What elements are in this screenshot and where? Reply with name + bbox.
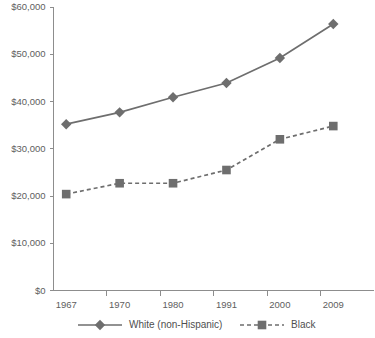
legend-item-white[interactable]: White (non-Hispanic)	[78, 319, 222, 330]
y-tick-label: $0	[35, 285, 46, 296]
x-tick-label: 1980	[162, 299, 183, 310]
y-tick-marks	[50, 7, 54, 291]
data-point-marker	[168, 92, 178, 102]
series-layer	[61, 19, 338, 199]
legend-label: Black	[291, 319, 316, 330]
data-point-marker	[222, 166, 231, 175]
data-point-marker	[169, 179, 178, 188]
data-point-marker	[329, 122, 338, 131]
legend-square-icon	[258, 321, 267, 330]
x-tick-marks	[107, 291, 321, 296]
data-point-marker	[275, 53, 285, 63]
x-axis	[54, 291, 375, 296]
legend-label: White (non-Hispanic)	[129, 319, 222, 330]
series-black	[62, 122, 338, 199]
data-point-marker	[62, 190, 71, 199]
y-tick-label: $60,000	[11, 1, 45, 12]
y-tick-label: $50,000	[11, 48, 45, 59]
y-tick-label: $30,000	[11, 143, 45, 154]
series-white	[61, 19, 338, 130]
legend-diamond-icon	[95, 320, 105, 330]
y-tick-label: $40,000	[11, 96, 45, 107]
chart-canvas: $0$10,000$20,000$30,000$40,000$50,000$60…	[0, 0, 375, 338]
x-tick-label: 1991	[216, 299, 237, 310]
series-line	[66, 126, 333, 194]
x-tick-label: 1970	[109, 299, 130, 310]
data-point-marker	[61, 119, 71, 129]
data-point-marker	[221, 78, 231, 88]
x-tick-label: 2009	[323, 299, 344, 310]
x-tick-label: 2000	[269, 299, 290, 310]
data-point-marker	[328, 19, 338, 29]
data-point-marker	[114, 107, 124, 117]
y-axis	[50, 7, 54, 291]
series-line	[66, 24, 333, 124]
legend-item-black[interactable]: Black	[240, 319, 316, 330]
data-point-marker	[115, 179, 124, 188]
x-tick-labels: 196719701980199120002009	[56, 299, 344, 310]
data-point-marker	[276, 135, 285, 144]
y-tick-labels: $0$10,000$20,000$30,000$40,000$50,000$60…	[11, 1, 45, 296]
y-tick-label: $10,000	[11, 237, 45, 248]
chart-legend: White (non-Hispanic)Black	[78, 319, 316, 330]
income-by-race-line-chart: $0$10,000$20,000$30,000$40,000$50,000$60…	[0, 0, 375, 338]
y-tick-label: $20,000	[11, 190, 45, 201]
x-tick-label: 1967	[56, 299, 77, 310]
